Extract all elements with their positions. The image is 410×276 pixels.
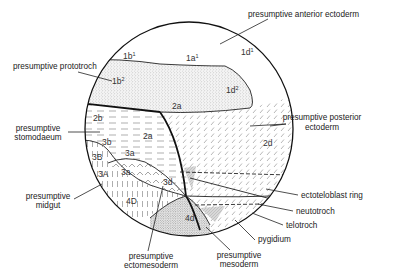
label-pygidium: pygidium <box>258 235 291 244</box>
cell-3A: 3A <box>98 169 109 179</box>
label-ectomesoderm-1: presumptive <box>129 252 174 261</box>
label-prototroch: presumptive prototroch <box>13 62 97 71</box>
label-anterior-ectoderm: presumptive anterior ectoderm <box>248 10 359 19</box>
label-posterior-ectoderm-2: ectoderm <box>305 123 339 132</box>
cell-3d: 3d <box>163 177 173 187</box>
label-stomodaeum-2: stomodaeum <box>14 133 62 142</box>
label-telotroch: telotroch <box>286 221 318 230</box>
label-mesoderm-1: presumptive <box>217 251 262 260</box>
cell-4D: 4D <box>126 196 137 206</box>
cell-3b: 3b <box>102 137 112 147</box>
cell-2a-top: 2a <box>172 101 182 111</box>
label-midgut-2: midgut <box>36 201 61 210</box>
label-mesoderm-2: mesoderm <box>220 260 259 269</box>
fate-map-diagram: 1b1 1a1 1d1 1b2 1d2 2a 2b 2a 2d 3b 3B 3a… <box>0 0 410 276</box>
embryo-regions <box>80 15 300 245</box>
cell-3B: 3B <box>92 152 103 162</box>
cell-4d: 4d <box>185 213 195 223</box>
label-neutotroch: neutotroch <box>296 207 335 216</box>
label-ectomesoderm-2: ectomesoderm <box>124 261 178 270</box>
cell-2a-mid: 2a <box>143 131 153 141</box>
cell-3a-upper: 3a <box>125 148 135 158</box>
cell-2b: 2b <box>93 113 103 123</box>
label-stomodaeum-1: presumptive <box>16 124 61 133</box>
label-posterior-ectoderm-1: presumptive posterior <box>283 113 362 122</box>
label-midgut-1: presumptive <box>26 192 71 201</box>
cell-3a-lower: 3a <box>121 167 131 177</box>
cell-2d: 2d <box>263 138 273 148</box>
label-ectoteloblast-ring: ectoteloblast ring <box>301 191 363 200</box>
